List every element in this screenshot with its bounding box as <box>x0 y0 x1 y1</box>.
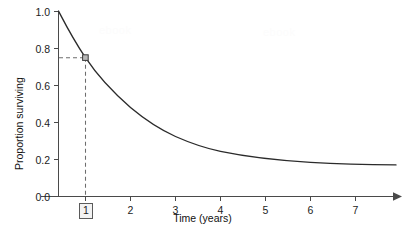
y-tick-label-0-8: 0.8 <box>20 44 50 55</box>
plot-area <box>0 0 405 231</box>
x-axis-title: Time (years) <box>0 213 405 224</box>
y-axis-title: Proportion surviving <box>14 77 25 170</box>
y-tick-marks <box>54 12 59 197</box>
x-tick-marks <box>86 197 356 202</box>
x-axis-arrow-icon <box>393 192 402 201</box>
watermark-left: ebook <box>99 24 131 36</box>
y-tick-label-1-0: 1.0 <box>20 7 50 18</box>
survival-curve-chart: 1.0 0.8 0.6 0.4 0.2 0.0 1 2 3 4 5 6 7 Ti… <box>0 0 405 231</box>
watermark-right: ebook <box>263 26 295 38</box>
reference-point-marker <box>83 55 89 61</box>
y-tick-label-0-0: 0.0 <box>20 192 50 203</box>
